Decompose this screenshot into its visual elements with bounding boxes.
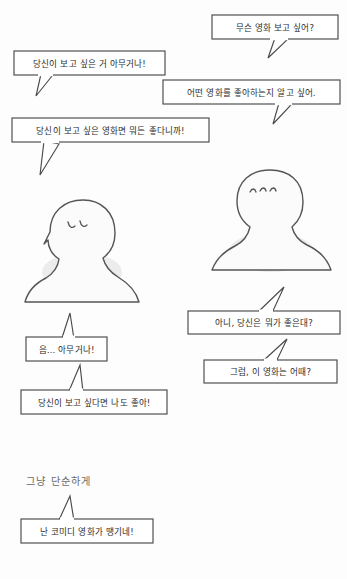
speech-bubble-1: 무슨 영화 보고 싶어? [212,15,338,58]
bubble-tail-6 [258,287,284,313]
bubble-label-8: 당신이 보고 싶다면 나도 좋아! [38,398,151,408]
bubble-label-7: 그럼, 이 영화는 어때? [230,367,311,377]
bubble-label-9: 난 코미디 영화가 땡기네! [40,527,134,537]
bubble-tail-4 [40,141,59,175]
bubble-label-6: 아니, 당신은 뭐가 좋은대? [215,317,313,328]
bubble-tail-3 [273,103,291,124]
speech-bubble-3: 어떤 영화를 좋아하는지 알고 싶어. [163,80,340,124]
bubble-label-3: 어떤 영화를 좋아하는지 알고 싶어. [187,88,316,98]
comic-canvas: 무슨 영화 보고 싶어? 당신이 보고 싶은 거 아무거나! 어떤 영화를 좋아… [0,0,347,579]
bubble-label-4: 당신이 보고 싶은 영화면 뭐든 좋다니까! [36,125,184,136]
speech-bubble-4: 당신이 보고 싶은 영화면 뭐든 좋다니까! [12,118,209,175]
speech-bubble-2: 당신이 보고 싶은 거 아무거나! [14,51,165,96]
bubble-tail-2 [36,74,52,96]
caption-simple: 그냥 단순하게 [26,475,91,487]
speech-bubble-6: 아니, 당신은 뭐가 좋은대? [188,287,340,334]
bubble-tail-1 [268,38,287,58]
right-character [212,170,331,272]
left-character-silhouette [25,200,139,302]
bubble-label-5: 음… 아무거나! [39,345,95,355]
bubble-tail-5 [62,313,74,339]
bubble-tail-9 [59,496,74,521]
bubble-label-2: 당신이 보고 싶은 거 아무거나! [33,59,146,69]
speech-bubble-8: 당신이 보고 싶다면 나도 좋아! [21,365,167,414]
right-character-silhouette [212,170,331,270]
bubble-label-1: 무슨 영화 보고 싶어? [236,23,315,33]
left-character [25,200,139,302]
speech-bubble-5: 음… 아무거나! [26,313,107,361]
speech-bubble-9: 난 코미디 영화가 땡기네! [21,496,153,543]
bubble-tail-8 [69,365,83,392]
speech-bubble-7: 그럼, 이 영화는 어때? [204,339,337,383]
